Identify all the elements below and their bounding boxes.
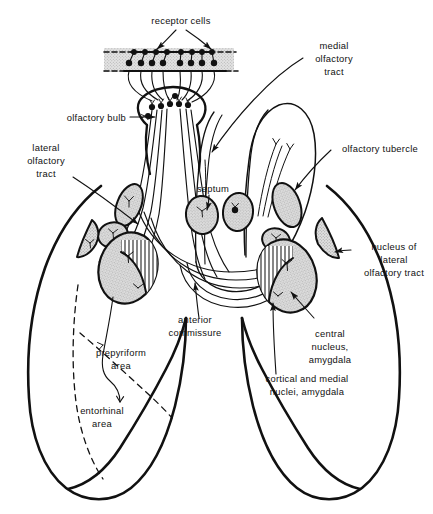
label-central-nucleus-amygdala-line1: central — [315, 328, 345, 339]
nuclei-right — [249, 179, 339, 320]
label-septum: septum — [197, 183, 229, 194]
label-cortical-medial-amygdala-line2: nuclei, amygdala — [270, 386, 345, 397]
label-lateral-olfactory-tract-line2: olfactory — [27, 155, 65, 166]
label-prepyriform-area-line1: prepyriform — [96, 347, 146, 358]
olfactory-pathways-diagram: receptor cells medial olfactory tract ol… — [0, 0, 433, 514]
olfactory-epithelium-band — [104, 48, 238, 72]
label-medial-olfactory-tract-line1: medial — [319, 40, 348, 51]
septal-nuclei — [184, 192, 255, 236]
label-nucleus-lot-line2: lateral — [380, 254, 407, 265]
label-central-nucleus-amygdala-line3: amygdala — [309, 354, 352, 365]
label-medial-olfactory-tract-line3: tract — [324, 66, 344, 77]
label-medial-olfactory-tract-line2: olfactory — [315, 53, 353, 64]
label-prepyriform-area-line2: area — [111, 360, 131, 371]
diagram-canvas: receptor cells medial olfactory tract ol… — [0, 0, 433, 514]
label-olfactory-tubercle: olfactory tubercle — [342, 143, 418, 154]
label-entorhinal-area-line1: entorhinal — [80, 405, 124, 416]
label-nucleus-lot-line1: nucleus of — [371, 241, 416, 252]
label-olfactory-bulb: olfactory bulb — [67, 112, 126, 123]
label-nucleus-lot-line3: olfactory tract — [364, 267, 424, 278]
label-receptor-cells: receptor cells — [151, 15, 210, 26]
label-lateral-olfactory-tract-line1: lateral — [32, 142, 59, 153]
label-entorhinal-area-line2: area — [92, 418, 112, 429]
cortical-area-boundaries — [73, 285, 172, 479]
label-lateral-olfactory-tract-line3: tract — [36, 168, 56, 179]
label-central-nucleus-amygdala-line2: nucleus, — [312, 341, 349, 352]
label-anterior-commissure-line2: commissure — [168, 327, 221, 338]
label-cortical-medial-amygdala-line1: cortical and medial — [266, 373, 349, 384]
label-anterior-commissure-line1: anterior — [178, 314, 212, 325]
